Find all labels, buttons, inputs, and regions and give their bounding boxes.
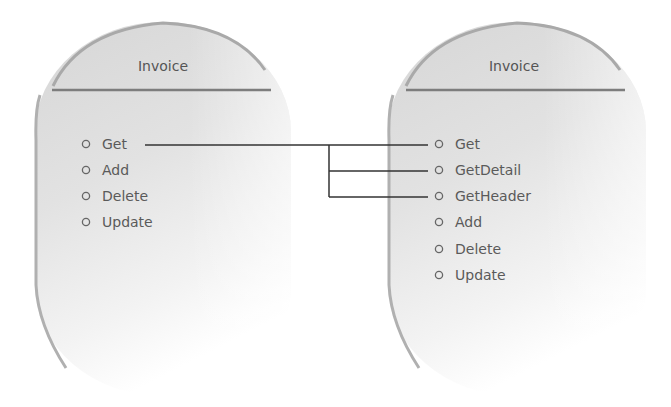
method-label: GetHeader — [455, 188, 531, 204]
method-label: Delete — [455, 241, 501, 257]
method-label: Add — [102, 162, 129, 178]
left-object-shape: Invoice Get Add Delete Update — [35, 22, 291, 396]
right-object-shape: Invoice Get GetDetail GetHeader Add Dele… — [388, 22, 646, 396]
method-label: Delete — [102, 188, 148, 204]
method-label: Update — [102, 214, 153, 230]
left-object-highlight — [35, 22, 291, 396]
method-label: Get — [455, 136, 480, 152]
method-label: Get — [102, 136, 127, 152]
method-label: Update — [455, 267, 506, 283]
right-object-highlight — [388, 22, 646, 396]
method-label: GetDetail — [455, 162, 521, 178]
left-object-title: Invoice — [138, 58, 188, 74]
method-label: Add — [455, 214, 482, 230]
invoice-interface-diagram: Invoice Get Add Delete Update — [0, 0, 671, 407]
right-object-title: Invoice — [489, 58, 539, 74]
